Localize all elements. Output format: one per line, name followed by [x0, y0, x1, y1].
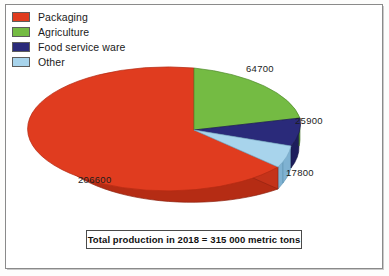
legend-label-other: Other	[38, 56, 65, 68]
legend-swatch-other	[12, 57, 30, 67]
pie-chart-figure: 64700 25900 17800 206600 Packaging Agric…	[0, 0, 389, 276]
total-production-caption-box: Total production in 2018 = 315 000 metri…	[86, 230, 302, 249]
legend-item-packaging: Packaging	[12, 10, 172, 24]
legend-item-food-service-ware: Food service ware	[12, 40, 172, 54]
total-production-caption-text: Total production in 2018 = 315 000 metri…	[88, 234, 301, 245]
value-label-agriculture: 64700	[246, 63, 274, 74]
value-label-other: 17800	[286, 167, 314, 178]
legend-label-food-service-ware: Food service ware	[38, 41, 125, 53]
legend-swatch-food-service-ware	[12, 42, 30, 52]
legend-label-packaging: Packaging	[38, 11, 88, 23]
legend-swatch-packaging	[12, 12, 30, 22]
legend-label-agriculture: Agriculture	[38, 26, 89, 38]
legend-item-agriculture: Agriculture	[12, 25, 172, 39]
legend-item-other: Other	[12, 55, 172, 69]
value-label-packaging: 206600	[78, 174, 112, 185]
value-label-food-service-ware: 25900	[295, 115, 323, 126]
legend-swatch-agriculture	[12, 27, 30, 37]
chart-legend: Packaging Agriculture Food service ware …	[12, 10, 172, 70]
